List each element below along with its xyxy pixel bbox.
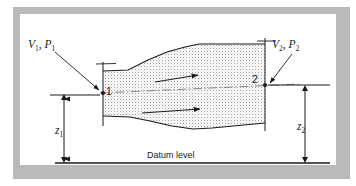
leader-line-outlet [270,54,292,83]
z1-arrow-head-bottom [61,157,67,163]
z2-subscript: 2 [301,126,305,135]
z2-arrow-head-top [302,85,308,91]
pipe-flow-diagram: V1, P1 V2, P2 1 2 z1 z2 Datum level [0,0,356,186]
outlet-pressure-symbol: P [288,38,296,50]
station-1-label: 1 [106,85,112,97]
figure-root: V1, P1 V2, P2 1 2 z1 z2 Datum level [0,0,356,186]
station-1-top-tick [96,64,116,65]
inlet-pressure-symbol: P [44,38,52,50]
elevation-2-label: z2 [296,120,305,135]
point-1-marker [101,91,105,95]
inlet-state-label: V1, P1 [28,38,56,53]
outlet-state-label: V2, P2 [272,38,300,53]
elevation-1-label: z1 [54,124,63,139]
leader-line-inlet [55,52,99,90]
z1-subscript: 1 [59,130,63,139]
point-2-marker [263,83,267,87]
outlet-pressure-subscript: 2 [296,44,300,53]
inlet-pressure-subscript: 1 [52,44,56,53]
z2-arrow-head-bottom [302,157,308,163]
station-2-label: 2 [252,73,258,85]
datum-level-label: Datum level [147,150,195,160]
